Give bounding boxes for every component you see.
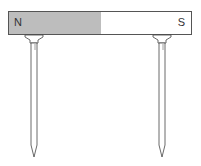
nail-left — [25, 35, 43, 157]
nails-illustration — [0, 0, 201, 166]
nail-right — [153, 35, 171, 157]
